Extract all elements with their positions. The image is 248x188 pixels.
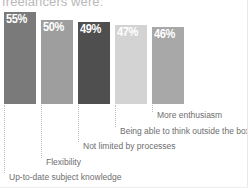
leader-line — [4, 105, 5, 173]
page-edge-bottom — [0, 187, 248, 188]
leader-line — [41, 105, 42, 158]
bar[interactable]: 47% — [115, 25, 147, 104]
bar[interactable]: 55% — [4, 12, 36, 104]
bar-chart-plot-area: 55%Up-to-date subject knowledge50%Flexib… — [0, 0, 248, 188]
category-label: Not limited by processes — [83, 141, 176, 151]
leader-line — [78, 105, 79, 142]
bar-value-label: 49% — [80, 23, 101, 36]
category-label: Being able to think outside the box — [120, 126, 248, 136]
bar[interactable]: 50% — [41, 20, 73, 104]
bar-value-label: 47% — [117, 26, 138, 39]
leader-line — [152, 105, 153, 112]
page-edge-right — [247, 0, 248, 188]
bar-value-label: 46% — [154, 28, 175, 41]
category-label: Flexibility — [46, 157, 81, 167]
category-label: Up-to-date subject knowledge — [9, 172, 121, 182]
category-label: More enthusiasm — [157, 110, 222, 120]
bar-value-label: 50% — [43, 21, 64, 34]
bar[interactable]: 49% — [78, 22, 110, 104]
bar[interactable]: 46% — [152, 27, 184, 104]
bar-value-label: 55% — [6, 13, 27, 26]
chart-screenshot: freelancers were: 55%Up-to-date subject … — [0, 0, 248, 188]
leader-line — [115, 105, 116, 127]
